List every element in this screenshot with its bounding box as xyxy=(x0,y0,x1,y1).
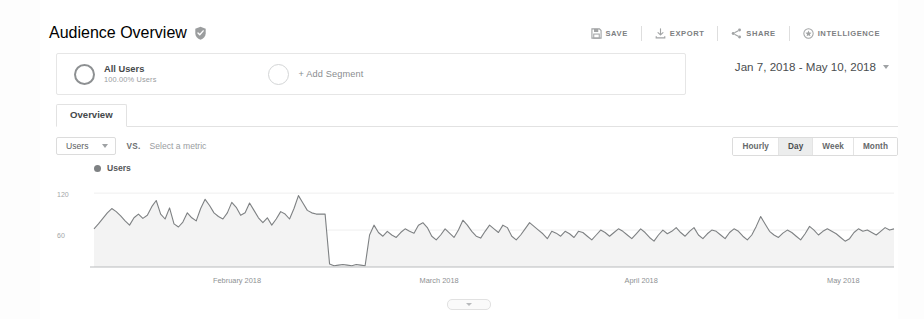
header-row: Audience Overview xyxy=(49,20,889,46)
add-segment-label: + Add Segment xyxy=(298,69,363,79)
segment-ring-icon xyxy=(74,64,95,85)
segment-all-users[interactable]: All Users 100.00% Users xyxy=(57,64,156,85)
x-tick-label: May 2018 xyxy=(827,276,859,285)
tab-overview-label: Overview xyxy=(70,109,113,120)
chart-plot-area[interactable]: 120 60 xyxy=(56,177,898,275)
metric-select[interactable]: Users xyxy=(56,137,116,155)
select-metric-link[interactable]: Select a metric xyxy=(150,141,207,151)
export-button[interactable]: EXPORT xyxy=(646,26,714,41)
chart-legend: Users xyxy=(94,163,898,173)
chevron-down-icon xyxy=(883,65,889,69)
analytics-page: Audience Overview xyxy=(0,0,924,319)
legend-label: Users xyxy=(107,163,131,173)
toolbar-divider xyxy=(717,26,718,41)
segment-text: All Users 100.00% Users xyxy=(104,64,156,85)
add-segment-ring-icon xyxy=(268,64,289,85)
save-label: SAVE xyxy=(606,29,628,38)
share-nodes-icon xyxy=(731,28,742,39)
toolbar-divider xyxy=(641,26,642,41)
chart-x-axis: February 2018March 2018April 2018May 201… xyxy=(56,276,898,290)
toolbar-divider xyxy=(789,26,790,41)
chart-block: Users 120 60 February 2018March 2018Apri… xyxy=(56,163,898,293)
users-line-chart xyxy=(56,177,898,275)
save-button[interactable]: SAVE xyxy=(582,26,637,41)
collapse-handle-icon xyxy=(466,303,472,306)
metric-select-label: Users xyxy=(66,141,88,151)
toolbar: SAVE EXPORT xyxy=(582,26,890,41)
share-label: SHARE xyxy=(746,29,775,38)
intelligence-button[interactable]: INTELLIGENCE xyxy=(794,26,889,41)
granularity-day[interactable]: Day xyxy=(779,138,813,155)
intelligence-star-icon xyxy=(803,28,814,39)
date-range-picker[interactable]: Jan 7, 2018 - May 10, 2018 xyxy=(735,60,889,73)
x-tick-label: March 2018 xyxy=(420,276,459,285)
metric-row: Users VS. Select a metric Hourly Day Wee… xyxy=(56,136,898,156)
export-download-icon xyxy=(655,28,666,39)
intelligence-label: INTELLIGENCE xyxy=(818,29,880,38)
segment-name: All Users xyxy=(104,64,156,76)
segment-bar: All Users 100.00% Users + Add Segment xyxy=(56,53,686,95)
granularity-toggle-group: Hourly Day Week Month xyxy=(732,137,898,156)
granularity-hourly[interactable]: Hourly xyxy=(733,138,779,155)
granularity-week[interactable]: Week xyxy=(813,138,854,155)
x-tick-label: February 2018 xyxy=(213,276,261,285)
segment-subtitle: 100.00% Users xyxy=(104,75,156,84)
date-range-value: Jan 7, 2018 - May 10, 2018 xyxy=(735,60,876,73)
add-segment-button[interactable]: + Add Segment xyxy=(251,64,363,85)
granularity-month[interactable]: Month xyxy=(854,138,897,155)
vs-label: VS. xyxy=(126,142,140,151)
title-wrap: Audience Overview xyxy=(49,24,207,42)
export-label: EXPORT xyxy=(670,29,705,38)
chevron-down-icon xyxy=(102,144,108,148)
x-tick-label: April 2018 xyxy=(625,276,658,285)
page-title: Audience Overview xyxy=(49,24,187,42)
shield-check-icon xyxy=(194,26,207,40)
legend-dot-icon xyxy=(94,165,101,172)
collapse-handle[interactable] xyxy=(447,299,491,310)
tab-overview[interactable]: Overview xyxy=(56,104,127,127)
save-icon xyxy=(591,28,602,39)
content-panel: Audience Overview xyxy=(40,0,898,319)
share-button[interactable]: SHARE xyxy=(722,26,784,41)
tab-strip: Overview xyxy=(56,104,898,127)
